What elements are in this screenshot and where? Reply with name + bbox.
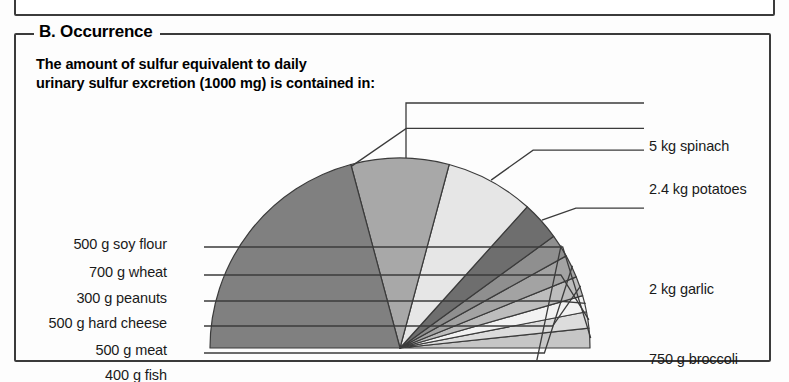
callout-label-peanuts: 300 g peanuts — [76, 290, 167, 306]
callout-label-potatoes: 2.4 kg potatoes — [649, 181, 747, 197]
occurrence-panel: B. Occurrence The amount of sulfur equiv… — [14, 33, 771, 362]
callout-label-hard-cheese: 500 g hard cheese — [49, 315, 167, 331]
callout-label-fish: 400 g fish — [105, 367, 167, 382]
callout-label-wheat: 700 g wheat — [89, 264, 167, 280]
callout-label-broccoli: 750 g broccoli — [649, 351, 738, 367]
figure-panel-b: B. Occurrence The amount of sulfur equiv… — [0, 0, 789, 382]
pie-slices — [210, 158, 590, 348]
semicircle-pie-chart: 5 kg spinach 2.4 kg potatoes 2 kg garlic… — [14, 33, 771, 362]
leader-line-broccoli — [542, 208, 644, 220]
callout-label-garlic: 2 kg garlic — [649, 281, 714, 297]
callout-label-spinach: 5 kg spinach — [649, 138, 729, 154]
callout-label-meat: 500 g meat — [95, 342, 167, 358]
pie-svg — [14, 33, 771, 362]
previous-panel-bottom-edge — [14, 0, 775, 16]
callout-label-soy-flour: 500 g soy flour — [73, 236, 167, 252]
leader-line-garlic — [491, 150, 644, 180]
